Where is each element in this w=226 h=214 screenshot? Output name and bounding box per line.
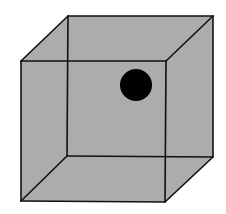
- back-left-edge: [67, 16, 68, 156]
- necker-cube-figure: [0, 0, 226, 214]
- cube-diagram: [0, 0, 226, 214]
- front-bottom-edge: [21, 201, 165, 202]
- black-dot: [120, 69, 152, 101]
- back-bottom-edge: [67, 156, 213, 157]
- front-right-edge: [165, 61, 166, 202]
